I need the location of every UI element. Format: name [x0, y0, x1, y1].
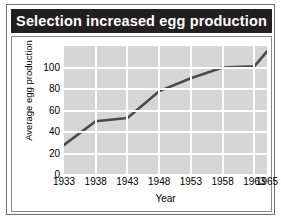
x-axis-tick-label: 1958	[211, 177, 233, 187]
x-axis-tick-label: 1965	[256, 177, 278, 187]
y-axis-title: Average egg production	[23, 30, 34, 152]
x-axis-tick-label: 1943	[116, 177, 138, 187]
x-axis-tick-label: 1953	[180, 177, 202, 187]
y-axis-tick-label: 20	[36, 149, 60, 159]
figure-root: Selection increased egg production Avera…	[0, 0, 281, 223]
chart-card: Selection increased egg production Avera…	[6, 4, 275, 215]
y-axis-tick-label: 40	[36, 127, 60, 137]
chart-title-bar: Selection increased egg production	[11, 9, 272, 33]
plot-frame: Average egg production 020406080100 1933…	[11, 36, 272, 212]
gridline-vertical	[253, 46, 255, 175]
x-axis-tick-label: 1948	[148, 177, 170, 187]
y-axis-tick-label: 100	[36, 63, 60, 73]
x-axis-title: Year	[64, 193, 267, 204]
x-axis-tick-label: 1938	[85, 177, 107, 187]
gridline-vertical	[95, 46, 97, 175]
x-axis-tick-labels: 19331938194319481953195819631965	[12, 177, 273, 191]
y-axis-tick-label: 60	[36, 106, 60, 116]
gridline-vertical	[158, 46, 160, 175]
plot-area	[64, 46, 267, 175]
x-axis-tick-label: 1933	[53, 177, 75, 187]
chart-title: Selection increased egg production	[16, 14, 267, 29]
gridline-vertical	[190, 46, 192, 175]
y-axis-tick-label: 80	[36, 84, 60, 94]
gridline-vertical	[126, 46, 128, 175]
gridline-vertical	[222, 46, 224, 175]
